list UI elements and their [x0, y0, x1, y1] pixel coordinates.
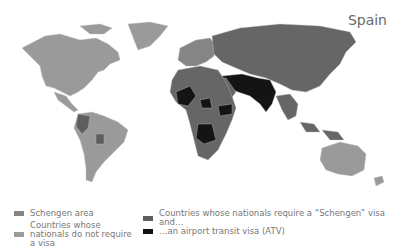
legend-item-no-visa: Countries whose nationals do not require… [14, 221, 134, 248]
region-southeast-asia [276, 94, 298, 120]
legend-item-atv: …an airport transit visa (ATV) [143, 227, 285, 236]
legend-swatch-schengen [14, 211, 24, 216]
region-australia [320, 142, 366, 176]
legend-item-schengen-visa: Countries whose nationals require a “Sch… [143, 209, 399, 227]
legend-swatch-schengen-visa [143, 216, 153, 221]
region-greenland [128, 22, 168, 50]
legend-label: Countries whose nationals do not require… [30, 221, 134, 248]
map-title: Spain [348, 12, 387, 28]
legend-label: Schengen area [30, 209, 94, 218]
world-map-svg [0, 0, 399, 200]
region-central-america [54, 92, 78, 112]
region-europe [178, 38, 216, 66]
legend-swatch-atv [143, 229, 153, 234]
legend-label: …an airport transit visa (ATV) [159, 227, 285, 236]
legend-swatch-no-visa [14, 232, 24, 237]
legend-label: Countries whose nationals require a “Sch… [159, 209, 399, 227]
legend-item-schengen: Schengen area [14, 209, 94, 218]
world-map [0, 0, 399, 200]
region-north-america [22, 34, 120, 96]
map-legend: Schengen area Countries whose nationals … [0, 205, 399, 240]
